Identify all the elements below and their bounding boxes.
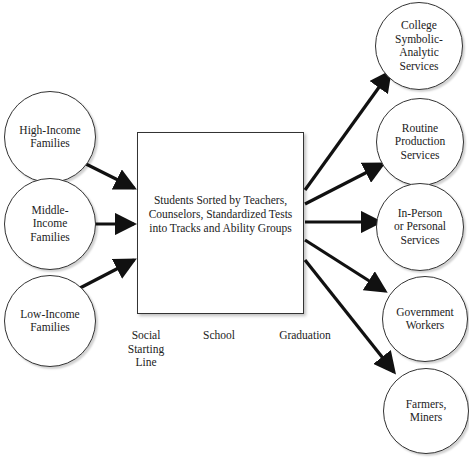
outcome-label: College Symbolic- Analytic Services — [395, 19, 443, 73]
outcome-label: Routine Production Services — [395, 122, 445, 163]
source-label: Middle- Income Families — [30, 204, 70, 245]
stage-social-starting-line: Social Starting Line — [118, 329, 174, 370]
school-sorting-box: Students Sorted by Teachers, Counselors,… — [137, 132, 304, 314]
stage-school: School — [194, 329, 244, 343]
source-label: Low-Income Families — [20, 308, 79, 335]
arrow-to-government — [305, 240, 385, 291]
outcome-label: In-Person or Personal Services — [394, 207, 446, 248]
outcome-in-person-services: In-Person or Personal Services — [376, 183, 464, 271]
process-label: Students Sorted by Teachers, Counselors,… — [145, 193, 297, 313]
arrow-to-routine — [305, 164, 383, 204]
arrow-to-farmers — [305, 260, 394, 372]
arrow-high-to-school — [80, 161, 134, 188]
source-label: High-Income Families — [19, 124, 80, 151]
source-low-income-families: Low-Income Families — [4, 275, 96, 367]
source-middle-income-families: Middle- Income Families — [4, 178, 96, 270]
outcome-college-symbolic-analytic: College Symbolic- Analytic Services — [375, 2, 463, 90]
outcome-routine-production: Routine Production Services — [376, 98, 464, 186]
outcome-farmers-miners: Farmers, Miners — [383, 368, 469, 454]
arrow-low-to-school — [80, 260, 134, 288]
outcome-government-workers: Government Workers — [382, 276, 468, 362]
outcome-label: Government Workers — [396, 306, 453, 333]
outcome-label: Farmers, Miners — [406, 398, 447, 425]
stage-graduation: Graduation — [272, 329, 338, 343]
source-high-income-families: High-Income Families — [4, 91, 96, 183]
